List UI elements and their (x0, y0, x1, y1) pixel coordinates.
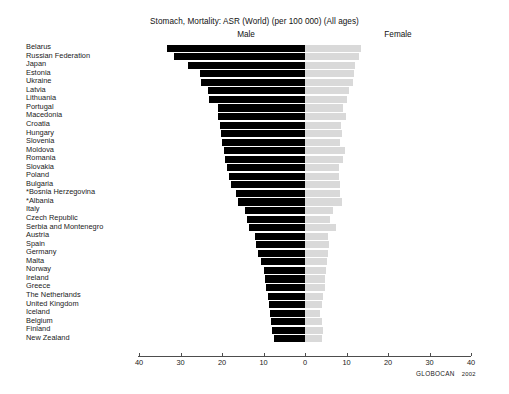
x-axis-tick-label: 30 (415, 358, 445, 367)
x-axis-tick-label: 40 (124, 358, 154, 367)
bar-male (264, 267, 306, 274)
plot-area: BelarusRussian FederationJapanEstoniaUkr… (0, 0, 509, 394)
bar-male (225, 156, 305, 163)
chart-row: Poland (0, 172, 509, 181)
bar-female (305, 207, 333, 214)
bar-female (305, 45, 361, 52)
bar-female (305, 164, 339, 171)
chart-row: Finland (0, 326, 509, 335)
bar-male (271, 318, 305, 325)
x-axis-tick-label: 10 (332, 358, 362, 367)
chart-row: Iceland (0, 309, 509, 318)
bar-female (305, 258, 327, 265)
bar-female (305, 79, 353, 86)
bar-female (305, 275, 325, 282)
x-axis-tick (471, 353, 472, 357)
bar-male (224, 147, 305, 154)
x-axis-tick (139, 353, 140, 357)
bar-female (305, 156, 343, 163)
chart-row: Norway (0, 266, 509, 275)
bar-male (218, 113, 305, 120)
bar-female (305, 190, 340, 197)
chart-row: New Zealand (0, 335, 509, 344)
source-credit: GLOBOCAN2002 (416, 370, 476, 377)
x-axis-tick-label: 30 (166, 358, 196, 367)
bar-male (222, 139, 305, 146)
x-axis-tick-label: 20 (207, 358, 237, 367)
x-axis-tick-label: 20 (373, 358, 403, 367)
bar-female (305, 139, 340, 146)
x-axis-tick (347, 353, 348, 357)
chart-row: Moldova (0, 147, 509, 156)
bar-male (272, 327, 305, 334)
bar-female (305, 310, 320, 317)
bar-male (274, 335, 305, 342)
chart-row: *Bosnia Herzegovina (0, 189, 509, 198)
bar-female (305, 233, 328, 240)
source-year: 2002 (462, 371, 476, 377)
bar-male (174, 53, 305, 60)
x-axis-tick-label: 40 (456, 358, 486, 367)
bar-male (256, 241, 305, 248)
bar-male (269, 301, 305, 308)
bar-female (305, 53, 359, 60)
chart-row: Ukraine (0, 78, 509, 87)
bar-female (305, 147, 345, 154)
chart-row: Romania (0, 155, 509, 164)
chart-row: Germany (0, 249, 509, 258)
bar-male (249, 224, 305, 231)
bar-male (220, 122, 305, 129)
bar-female (305, 122, 341, 129)
bar-male (167, 45, 305, 52)
bar-male (265, 275, 305, 282)
bar-male (245, 207, 305, 214)
bar-male (208, 87, 305, 94)
bar-female (305, 335, 322, 342)
bar-female (305, 293, 323, 300)
bar-male (227, 164, 305, 171)
bar-female (305, 130, 342, 137)
bar-female (305, 96, 347, 103)
x-axis-tick-label: 0 (290, 358, 320, 367)
bar-female (305, 250, 328, 257)
chart-row: Slovakia (0, 164, 509, 173)
bar-male (218, 104, 305, 111)
chart-row: Serbia and Montenegro (0, 224, 509, 233)
chart-row: Estonia (0, 70, 509, 79)
chart-row: Macedonia (0, 112, 509, 121)
bar-female (305, 301, 322, 308)
bar-male (255, 233, 305, 240)
bar-male (231, 181, 305, 188)
bar-male (261, 258, 305, 265)
chart-row: United Kingdom (0, 301, 509, 310)
bar-female (305, 224, 336, 231)
bar-female (305, 241, 329, 248)
bar-male (266, 284, 305, 291)
chart-row: Lithuania (0, 95, 509, 104)
x-axis-tick (388, 353, 389, 357)
bar-female (305, 198, 342, 205)
x-axis-tick (181, 353, 182, 357)
bar-female (305, 173, 339, 180)
chart-row: Slovenia (0, 138, 509, 147)
chart-row: Ireland (0, 275, 509, 284)
source-name: GLOBOCAN (416, 370, 455, 377)
bar-female (305, 318, 322, 325)
chart-row: Croatia (0, 121, 509, 130)
chart-row: Malta (0, 258, 509, 267)
chart-row: Spain (0, 241, 509, 250)
bar-female (305, 70, 354, 77)
bar-male (201, 79, 305, 86)
bar-female (305, 104, 343, 111)
chart-row: Portugal (0, 104, 509, 113)
bar-male (200, 70, 305, 77)
stomach-mortality-chart: Stomach, Mortality: ASR (World) (per 100… (0, 0, 509, 394)
x-axis-tick (305, 353, 306, 357)
bar-female (305, 62, 355, 69)
bar-male (209, 96, 305, 103)
bar-male (270, 310, 305, 317)
bar-female (305, 284, 325, 291)
x-axis-tick-label: 10 (249, 358, 279, 367)
bar-male (247, 216, 305, 223)
chart-row: Hungary (0, 130, 509, 139)
